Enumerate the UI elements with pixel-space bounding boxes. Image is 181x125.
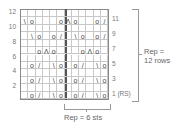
yarn-over-symbol: o: [36, 48, 43, 55]
yarn-over-symbol: o: [101, 62, 108, 69]
chart-cell: [101, 10, 108, 17]
chart-cell: [28, 10, 35, 17]
k2tog-symbol: /: [101, 33, 108, 40]
yarn-over-symbol: o: [72, 62, 79, 69]
chart-cell: [36, 25, 43, 32]
chart-cell: [57, 47, 64, 54]
yarn-over-symbol: o: [57, 18, 64, 25]
chart-cell: [57, 10, 64, 17]
chart-cell: [65, 62, 72, 69]
chart-cell: [43, 55, 50, 62]
yarn-over-symbol: o: [101, 77, 108, 84]
row-number-label: 5: [112, 60, 116, 67]
chart-cell: [36, 40, 43, 47]
row-repeat-label-line2: 12 rows: [144, 56, 170, 65]
chart-cell: [36, 69, 43, 76]
chart-cell: [21, 40, 28, 47]
chart-cell: [86, 62, 93, 69]
row-repeat-bracket-tick: [138, 54, 142, 55]
yarn-over-symbol: o: [94, 33, 101, 40]
chart-cell: [28, 25, 35, 32]
chart-cell: [28, 84, 35, 91]
chart-cell: [79, 10, 86, 17]
chart-cell: [50, 55, 57, 62]
row-number-label: 7: [112, 45, 116, 52]
chart-cell: [79, 55, 86, 62]
yarn-over-symbol: o: [94, 48, 101, 55]
chart-cell: [57, 84, 64, 91]
chart-cell: [50, 40, 57, 47]
chart-cell: [86, 55, 93, 62]
ssk-symbol: \: [50, 62, 57, 69]
chart-cell: [79, 84, 86, 91]
chart-cell: [86, 77, 93, 84]
yarn-over-symbol: o: [28, 77, 35, 84]
chart-cell: [43, 40, 50, 47]
chart-cell: [72, 10, 79, 17]
yarn-over-symbol: o: [50, 48, 57, 55]
chart-cell: [28, 55, 35, 62]
chart-cell: [94, 69, 101, 76]
chart-cell: [43, 10, 50, 17]
chart-cell: [36, 17, 43, 24]
yarn-over-symbol: o: [79, 33, 86, 40]
chart-cell: [65, 40, 72, 47]
chart-cell: [57, 40, 64, 47]
chart-cell: [65, 84, 72, 91]
row-number-label: 2: [4, 82, 16, 89]
ssk-symbol: \: [28, 33, 35, 40]
chart-cell: [28, 69, 35, 76]
chart-cell: [21, 55, 28, 62]
chart-cell: [72, 55, 79, 62]
chart-cell: [65, 25, 72, 32]
k2tog-symbol: /: [79, 62, 86, 69]
chart-cell: [86, 40, 93, 47]
chart-cell: [79, 40, 86, 47]
yarn-over-symbol: o: [57, 62, 64, 69]
yarn-over-symbol: o: [57, 92, 64, 99]
chart-cell: [28, 47, 35, 54]
chart-cell: [72, 40, 79, 47]
k2tog-symbol: /: [36, 77, 43, 84]
chart-cell: [50, 10, 57, 17]
chart-cell: [21, 25, 28, 32]
chart-cell: [94, 25, 101, 32]
chart-cell: [36, 84, 43, 91]
chart-cell: [65, 32, 72, 39]
chart-cell: [43, 92, 50, 99]
chart-cell: [79, 69, 86, 76]
chart-cell: [43, 32, 50, 39]
yarn-over-symbol: o: [79, 48, 86, 55]
k2tog-symbol: /: [79, 92, 86, 99]
ssk-symbol: \: [50, 92, 57, 99]
row-number-label: 6: [4, 53, 16, 60]
row-number-label: 3: [112, 75, 116, 82]
yarn-over-symbol: o: [72, 77, 79, 84]
ssk-symbol: \: [94, 62, 101, 69]
yarn-over-symbol: o: [28, 92, 35, 99]
chart-cell: [79, 25, 86, 32]
k2tog-symbol: /: [57, 33, 64, 40]
chart-cell: [57, 55, 64, 62]
chart-cell: [43, 69, 50, 76]
chart-cell: [57, 25, 64, 32]
chart-cell: [65, 92, 72, 99]
stitch-repeat-label: Rep = 6 sts: [64, 113, 102, 122]
chart-cell: [21, 84, 28, 91]
chart-cell: [28, 40, 35, 47]
chart-cell: [50, 17, 57, 24]
double-decrease-symbol: Λ: [86, 48, 93, 55]
chart-cell: [50, 69, 57, 76]
row-number-label: 9: [112, 30, 116, 37]
ssk-symbol: \: [94, 77, 101, 84]
stitch-repeat-bracket-tick: [86, 109, 87, 112]
chart-cell: [36, 10, 43, 17]
chart-cell: [86, 69, 93, 76]
double-decrease-symbol: Λ: [65, 18, 72, 25]
chart-cell: [21, 62, 28, 69]
chart-cell: [94, 40, 101, 47]
chart-cell: [21, 32, 28, 39]
row-number-label: 12: [4, 8, 16, 15]
chart-cell: [65, 10, 72, 17]
row-repeat-label: Rep = 12 rows: [144, 47, 170, 65]
